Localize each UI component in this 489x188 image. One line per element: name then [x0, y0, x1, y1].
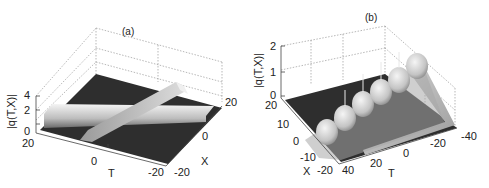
- panel-b-xtick-20: 20: [370, 157, 382, 169]
- panel-a-xtick-20: 20: [22, 137, 34, 149]
- panel-b-xtick-0: 0: [403, 147, 409, 159]
- panel-b-ytick-10: 10: [277, 118, 289, 130]
- panel-a-ztick-2: 2: [24, 104, 30, 116]
- panel-a-ytick-neg20: -20: [174, 166, 190, 178]
- panel-b-zlabel: |q(T,X)|: [252, 53, 264, 88]
- panel-b-xtick-40: 40: [342, 164, 354, 176]
- surface-plot-b: [245, 0, 489, 188]
- panel-a: (a) |q(T,X)| 4 2 0 20 0 -20 T 20 0 -20 X: [0, 0, 245, 188]
- panel-b-xtick-neg20: -20: [430, 137, 446, 149]
- panel-b-xtick-neg40: -40: [461, 130, 477, 142]
- panel-a-xtick-0: 0: [91, 155, 97, 167]
- panel-a-ylabel: X: [201, 155, 208, 167]
- panel-a-ztick-4: 4: [24, 89, 30, 101]
- panel-b-ytick-neg20: -20: [317, 164, 333, 176]
- panel-b-ztick-2: 2: [270, 40, 276, 52]
- panel-b-title: (b): [365, 12, 377, 23]
- panel-b-xlabel: T: [388, 167, 395, 179]
- panel-b-ytick-20: 20: [265, 99, 277, 111]
- panel-a-zlabel: |q(T,X)|: [5, 94, 17, 129]
- panel-b: (b) |q(T,X)| 2 1 0 20 10 0 -10 -20 X 40 …: [245, 0, 489, 188]
- panel-a-xlabel: T: [108, 167, 115, 179]
- panel-b-ytick-neg10: -10: [300, 151, 316, 163]
- panel-a-ytick-20: 20: [225, 96, 237, 108]
- panel-b-ztick-1: 1: [270, 66, 276, 78]
- panel-a-title: (a): [122, 26, 134, 37]
- panel-a-ytick-0: 0: [202, 130, 208, 142]
- panel-a-xtick-neg20: -20: [148, 166, 164, 178]
- panel-b-ytick-0: 0: [293, 135, 299, 147]
- panel-b-ylabel: X: [303, 165, 310, 177]
- panel-a-ztick-0: 0: [24, 125, 30, 137]
